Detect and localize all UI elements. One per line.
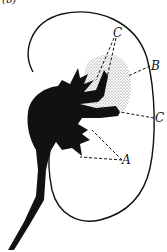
diagram-canvas <box>0 0 167 252</box>
corner-label: (b) <box>2 0 16 6</box>
kidney-diagram: (b) C B C A <box>0 0 167 252</box>
leader-B <box>128 66 150 76</box>
leader-A-2 <box>80 157 122 160</box>
label-C-right: C <box>155 112 164 124</box>
leader-A-1 <box>92 130 122 160</box>
renal-pelvis <box>8 68 120 250</box>
label-C-top: C <box>113 27 122 39</box>
leader-C-right <box>120 112 154 118</box>
label-B: B <box>151 60 160 72</box>
label-A: A <box>122 154 131 166</box>
